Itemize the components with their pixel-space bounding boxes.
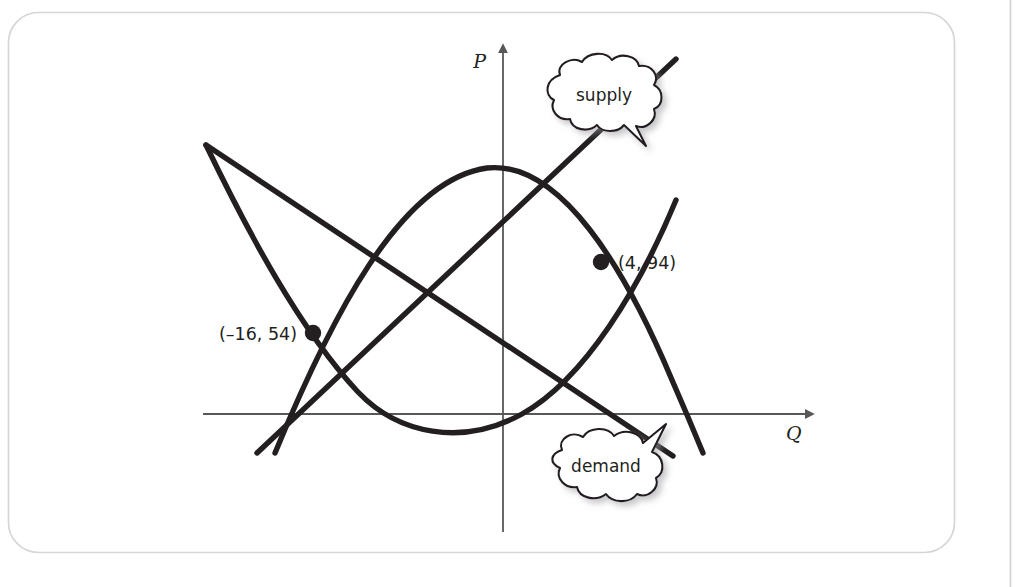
figure-container: P Q (–16, 54) (4, 94) supply demand	[0, 0, 1019, 587]
supply-bubble-label: supply	[576, 85, 632, 105]
right-intersection-label: (4, 94)	[618, 253, 676, 273]
demand-bubble-label: demand	[571, 456, 641, 476]
intersection-dot-right	[593, 254, 609, 270]
left-intersection-label: (–16, 54)	[219, 324, 297, 344]
q-axis-label: Q	[786, 422, 802, 444]
intersection-dot-left	[305, 325, 321, 341]
p-axis-label: P	[472, 50, 487, 72]
rounded-figure-border	[9, 13, 955, 553]
supply-demand-figure: P Q (–16, 54) (4, 94) supply demand	[0, 0, 1019, 587]
